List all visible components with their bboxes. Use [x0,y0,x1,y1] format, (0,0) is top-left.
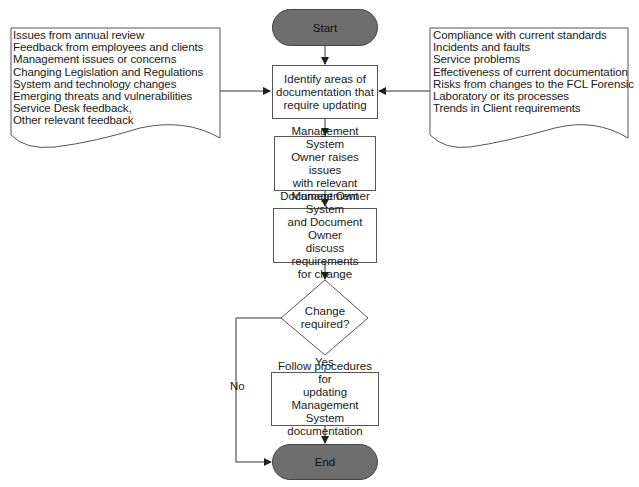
end-terminal: End [272,444,378,480]
step-text: System [272,412,378,425]
right-input-item: Trends in Client requirements [433,102,634,114]
left-input-item: Emerging threats and vulnerabilities [13,90,203,102]
step-follow-procedures: Follow procedures for updating Managemen… [271,372,379,426]
left-input-list: Issues from annual review Feedback from … [13,29,203,127]
step-text: Identify areas of [276,73,374,86]
step-text: for change [274,268,376,281]
right-input-item: Laboratory or its processes [433,90,634,102]
step-text: updating Management [272,386,378,412]
right-input-item: Service problems [433,53,634,65]
start-terminal: Start [272,9,378,46]
decision-line: Change [285,305,365,318]
step-text: Management System [274,190,376,216]
step-text: Owner raises issues [275,151,375,177]
step-text: Follow procedures for [272,360,378,386]
right-input-item: Risks from changes to the FCL Forensic [433,78,634,90]
left-input-item: Management issues or concerns [13,53,203,65]
step-text: and Document Owner [274,216,376,242]
decision-line: required? [285,318,365,331]
left-input-item: Issues from annual review [13,29,203,41]
left-input-item: Service Desk feedback, [13,102,203,114]
right-input-item: Incidents and faults [433,41,634,53]
left-input-item: Other relevant feedback [13,114,203,126]
right-input-item: Effectiveness of current documentation [433,66,634,78]
start-label: Start [313,22,337,34]
step-text: Management System [275,125,375,151]
left-input-item: System and technology changes [13,78,203,90]
step-text: with relevant [275,177,375,190]
step-text: documentation [272,425,378,438]
no-label: No [230,380,245,392]
step-text: documentation that [276,86,374,99]
step-discuss-requirements: Management System and Document Owner dis… [273,208,377,263]
right-input-list: Compliance with current standards Incide… [433,29,634,114]
end-label: End [315,456,335,468]
left-input-item: Feedback from employees and clients [13,41,203,53]
step-identify-areas: Identify areas of documentation that req… [272,65,378,119]
step-text: require updating [276,99,374,112]
step-raise-issues: Management System Owner raises issues wi… [274,136,376,191]
decision-text: Change required? [285,305,365,331]
right-input-item: Compliance with current standards [433,29,634,41]
left-input-item: Changing Legislation and Regulations [13,66,203,78]
step-text: discuss requirements [274,242,376,268]
